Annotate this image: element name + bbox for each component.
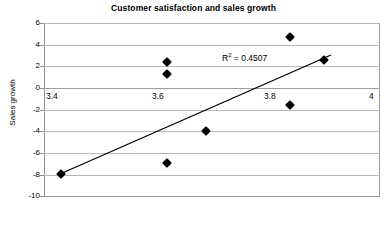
y-tick-label-4: 4 bbox=[4, 41, 40, 49]
r-squared-annotation: R2 = 0.4507 bbox=[222, 52, 267, 63]
gridline-2 bbox=[44, 66, 380, 67]
data-point bbox=[285, 32, 295, 42]
y-tick-label-6: 6 bbox=[4, 19, 40, 27]
gridline-m2 bbox=[44, 110, 380, 111]
data-point bbox=[162, 69, 172, 79]
x-tick-label-3-8: 3.8 bbox=[264, 92, 276, 101]
r-squared-value: = 0.4507 bbox=[231, 53, 267, 63]
plot-border-top bbox=[44, 23, 380, 24]
data-point bbox=[319, 55, 329, 65]
y-axis-title: Sales growth bbox=[8, 67, 17, 139]
gridline-m4 bbox=[44, 131, 380, 132]
y-tick-label-m8: -8 bbox=[4, 171, 40, 179]
gridline-m8 bbox=[44, 175, 380, 176]
plot-border-bottom bbox=[44, 196, 380, 197]
plot-area: 3.4 3.6 3.8 4 bbox=[44, 23, 380, 196]
data-point bbox=[162, 158, 172, 168]
data-point bbox=[56, 169, 66, 179]
x-tick-label-3-4: 3.4 bbox=[46, 92, 58, 101]
y-tick-label-m10: -10 bbox=[4, 192, 40, 200]
x-tick-label-4: 4 bbox=[369, 92, 374, 101]
gridline-m6 bbox=[44, 153, 380, 154]
y-axis-tick-labels: 6 4 2 0 -2 -4 -6 -8 -10 bbox=[0, 0, 40, 236]
gridline-0 bbox=[44, 88, 380, 89]
gridline-4 bbox=[44, 45, 380, 46]
y-tick-label-m6: -6 bbox=[4, 149, 40, 157]
chart-title: Customer satisfaction and sales growth bbox=[0, 3, 387, 13]
chart-container: Customer satisfaction and sales growth 6… bbox=[0, 0, 387, 236]
data-point bbox=[201, 126, 211, 136]
x-tick-label-3-6: 3.6 bbox=[152, 92, 164, 101]
